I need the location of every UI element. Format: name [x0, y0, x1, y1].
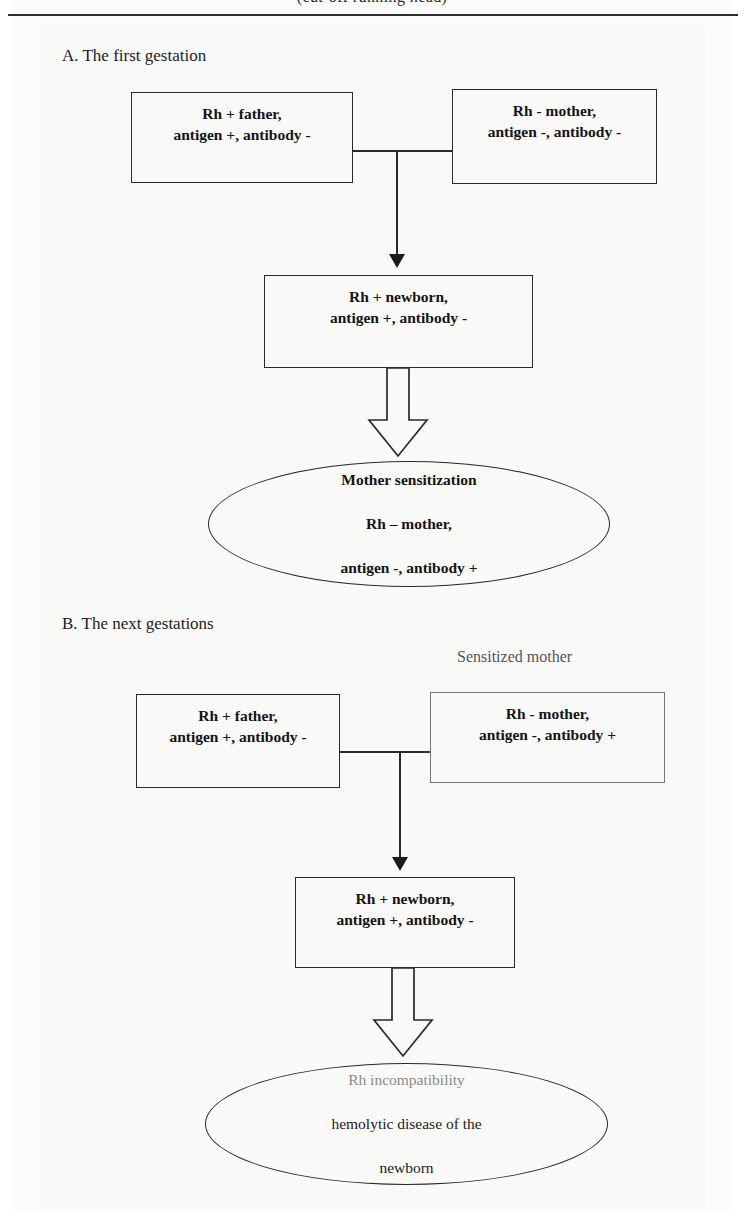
section-b-newborn-box: Rh + newborn, antigen +, antibody - [295, 877, 515, 968]
section-a-parent-connector [353, 150, 452, 152]
section-b-outcome-text: Rh incompatibility hemolytic disease of … [331, 1047, 481, 1201]
sensitized-mother-label: Sensitized mother [457, 648, 572, 666]
section-a-outcome-text: Mother sensitization Rh – mother, antige… [340, 447, 477, 601]
section-a-mother-text: Rh - mother, antigen -, antibody - [488, 90, 622, 143]
section-b-mother-box: Rh - mother, antigen -, antibody + [430, 692, 665, 783]
section-a-title: A. The first gestation [62, 46, 206, 66]
section-a-mother-box: Rh - mother, antigen -, antibody - [452, 89, 657, 184]
section-b-outcome-line3: newborn [331, 1157, 481, 1179]
running-head-clip: (cut-off running head) [0, 0, 744, 14]
section-b-parent-connector [340, 751, 430, 753]
section-b-newborn-text: Rh + newborn, antigen +, antibody - [336, 878, 473, 931]
down-arrow-icon [392, 857, 408, 871]
section-b-outcome-line2: hemolytic disease of the [331, 1113, 481, 1135]
section-b-father-box: Rh + father, antigen +, antibody - [136, 694, 340, 788]
section-a-father-text: Rh + father, antigen +, antibody - [173, 93, 310, 146]
section-b-father-text: Rh + father, antigen +, antibody - [169, 695, 306, 748]
down-arrow-icon [389, 254, 405, 268]
header-rule [8, 14, 738, 16]
section-a-outcome-line1: Mother sensitization [340, 469, 477, 491]
section-b-outcome-ellipse: Rh incompatibility hemolytic disease of … [205, 1063, 608, 1185]
section-a-outcome-line2: Rh – mother, [340, 513, 477, 535]
section-a-down-line [396, 150, 398, 256]
section-a-outcome-line3: antigen -, antibody + [340, 557, 477, 579]
section-b-down-line [399, 751, 401, 859]
section-a-outcome-ellipse: Mother sensitization Rh – mother, antige… [208, 461, 610, 587]
section-a-father-box: Rh + father, antigen +, antibody - [131, 92, 353, 183]
section-b-outcome-line1: Rh incompatibility [331, 1069, 481, 1091]
running-head-text: (cut-off running head) [0, 0, 744, 6]
section-b-title: B. The next gestations [62, 614, 214, 634]
diagram-page: (cut-off running head) A. The first gest… [0, 0, 744, 1232]
section-a-newborn-text: Rh + newborn, antigen +, antibody - [330, 276, 467, 329]
section-a-newborn-box: Rh + newborn, antigen +, antibody - [264, 275, 533, 368]
section-b-mother-text: Rh - mother, antigen -, antibody + [479, 693, 616, 746]
